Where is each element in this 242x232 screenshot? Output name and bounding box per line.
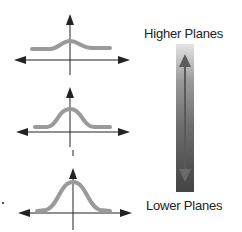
bell-curve-medium — [35, 109, 110, 127]
left-arrow-icon — [18, 209, 30, 217]
up-arrow-icon — [69, 168, 77, 179]
plot-bottom — [0, 150, 140, 232]
lower-planes-label: Lower Planes — [146, 198, 222, 213]
right-arrow-icon — [118, 128, 130, 136]
right-arrow-icon — [120, 209, 132, 217]
arrow-down-icon — [179, 169, 191, 182]
left-arrow-icon — [16, 128, 28, 136]
higher-planes-label: Higher Planes — [144, 26, 223, 41]
stray-mark — [2, 202, 4, 204]
right-arrow-icon — [118, 56, 130, 64]
plot-middle — [0, 75, 140, 150]
left-arrow-icon — [14, 56, 26, 64]
plot-top — [0, 0, 140, 80]
up-arrow-icon — [66, 14, 74, 25]
gradient-bar — [176, 44, 194, 192]
up-arrow-icon — [66, 87, 74, 98]
bell-curve-low — [32, 41, 110, 49]
arrow-up-icon — [179, 54, 191, 67]
